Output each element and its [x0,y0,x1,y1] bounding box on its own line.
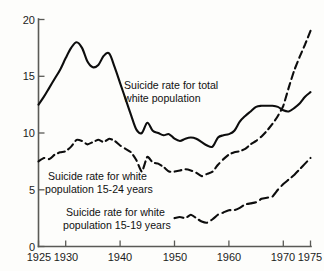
series-white-15-19 [175,158,311,223]
x-tick-label-1960: 1960 [217,251,241,263]
x-tick-label-1925: 1925 [27,251,51,263]
annot-total-line2: white population [123,92,201,104]
annotation-total-white-population: Suicide rate for total white population [123,79,218,104]
annot-15-19-line2: population 15-19 years [63,219,171,231]
annotation-white-15-24: Suicide rate for white population 15-24 … [45,170,153,195]
annot-15-24-line1: Suicide rate for white [48,170,147,182]
x-tick-marks [39,241,311,247]
chart-canvas: 20 15 10 5 0 1925 1930 1940 1950 1960 19… [0,0,324,271]
x-tick-label-1975: 1975 [298,251,322,263]
x-tick-label-1970: 1970 [271,251,295,263]
y-tick-label-10: 10 [23,127,35,139]
y-tick-label-5: 5 [29,184,35,196]
annot-15-19-line1: Suicide rate for white [66,206,165,218]
x-tick-label-1930: 1930 [54,251,78,263]
annot-total-line1: Suicide rate for total [124,79,218,91]
y-tick-label-20: 20 [23,14,35,26]
annotation-white-15-19: Suicide rate for white population 15-19 … [63,206,171,231]
annot-15-24-line2: population 15-24 years [45,183,153,195]
y-tick-marks [39,20,45,247]
x-tick-label-1940: 1940 [108,251,132,263]
y-tick-label-15: 15 [23,70,35,82]
x-tick-labels: 1925 1930 1940 1950 1960 1970 1975 [27,251,322,263]
suicide-rate-line-chart: 20 15 10 5 0 1925 1930 1940 1950 1960 19… [0,0,324,271]
x-tick-label-1950: 1950 [163,251,187,263]
y-tick-labels: 20 15 10 5 0 [23,14,35,253]
